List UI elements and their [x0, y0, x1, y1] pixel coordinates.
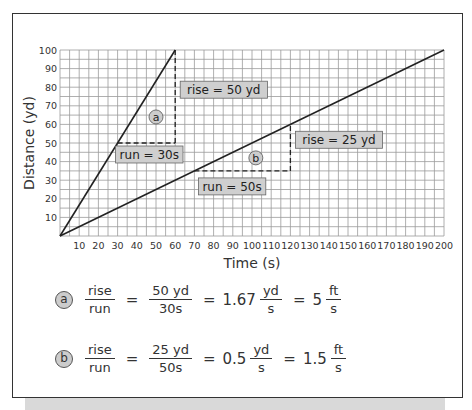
ft-per-s-fraction: ft s — [326, 283, 341, 316]
x-tick-label: 130 — [301, 240, 319, 251]
x-tick-label: 70 — [188, 240, 200, 251]
x-tick-label: 10 — [73, 240, 85, 251]
y-tick-label: 60 — [45, 119, 57, 130]
y-axis-label: Distance (yd) — [21, 96, 37, 190]
y-tick-label: 30 — [45, 175, 57, 186]
run-a-label: run = 30s — [120, 148, 179, 162]
x-tick-label: 140 — [320, 240, 338, 251]
x-tick-label: 90 — [227, 240, 239, 251]
yd-per-s-fraction: yd s — [260, 283, 282, 316]
y-tick-label: 40 — [45, 156, 57, 167]
x-tick-label: 50 — [150, 240, 162, 251]
x-tick-label: 40 — [131, 240, 143, 251]
yd-per-s-fraction: yd s — [250, 342, 272, 375]
y-tick-label: 50 — [45, 138, 57, 149]
marker-a-letter: a — [153, 111, 160, 124]
x-tick-label: 160 — [358, 240, 376, 251]
y-tick-label: 80 — [45, 82, 57, 93]
y-tick-label: 70 — [45, 100, 57, 111]
run-b-label: run = 50s — [202, 180, 261, 194]
y-tick-label: 20 — [45, 193, 57, 204]
x-tick-label: 20 — [92, 240, 104, 251]
x-tick-label: 190 — [416, 240, 434, 251]
x-tick-label: 200 — [435, 240, 453, 251]
x-tick-label: 80 — [208, 240, 220, 251]
ft-per-s-fraction: ft s — [331, 342, 346, 375]
x-tick-label: 180 — [397, 240, 415, 251]
marker-b-letter: b — [252, 152, 259, 165]
marker-a-badge: a — [55, 291, 73, 309]
x-tick-label: 30 — [112, 240, 124, 251]
y-tick-label: 100 — [39, 45, 57, 56]
rise-a-label: rise = 50 yd — [187, 83, 260, 97]
marker-b-badge: b — [55, 350, 73, 368]
x-tick-label: 170 — [377, 240, 395, 251]
x-tick-label: 150 — [339, 240, 357, 251]
rise-over-run-fraction: rise run — [85, 342, 115, 375]
values-fraction: 25 yd 50s — [149, 342, 192, 375]
x-tick-label: 110 — [262, 240, 280, 251]
equation-a: a rise run = 50 yd 30s = 1.67 yd s = 5 f… — [55, 283, 345, 316]
x-tick-label: 60 — [169, 240, 181, 251]
x-tick-label: 120 — [281, 240, 299, 251]
rise-b-label: rise = 25 yd — [302, 133, 375, 147]
y-tick-label: 10 — [45, 212, 57, 223]
rise-over-run-fraction: rise run — [85, 283, 115, 316]
x-axis-label: Time (s) — [223, 255, 281, 271]
values-fraction: 50 yd 30s — [149, 283, 192, 316]
y-tick-label: 90 — [45, 63, 57, 74]
x-tick-label: 100 — [243, 240, 261, 251]
equation-b: b rise run = 25 yd 50s = 0.5 yd s = 1.5 … — [55, 342, 350, 375]
